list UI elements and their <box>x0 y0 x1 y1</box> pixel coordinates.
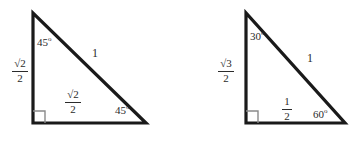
label-horizontal-leg-right: 1 2 <box>278 96 296 122</box>
label-apex-angle-left: 45o <box>37 36 52 48</box>
label-vertical-leg-left: √2 2 <box>9 58 31 84</box>
label-apex-angle-right: 30o <box>250 30 265 42</box>
degree-symbol-icon: o <box>261 29 265 37</box>
label-base-angle-right: 60o <box>313 108 328 120</box>
triangles-diagram <box>0 0 353 142</box>
degree-symbol-icon: o <box>324 107 328 115</box>
label-hypotenuse-left: 1 <box>92 47 98 59</box>
fraction-sqrt3-over-2: √3 2 <box>218 58 234 84</box>
degree-symbol-icon: o <box>126 103 130 111</box>
label-base-angle-left: 45o <box>115 104 130 116</box>
fraction-sqrt2-over-2: √2 2 <box>65 89 81 115</box>
degree-symbol-icon: o <box>48 35 52 43</box>
fraction-sqrt2-over-2: √2 2 <box>12 58 28 84</box>
label-horizontal-leg-left: √2 2 <box>62 89 84 115</box>
label-hypotenuse-right: 1 <box>307 52 313 64</box>
fraction-1-over-2: 1 2 <box>282 96 292 122</box>
label-vertical-leg-right: √3 2 <box>215 58 237 84</box>
